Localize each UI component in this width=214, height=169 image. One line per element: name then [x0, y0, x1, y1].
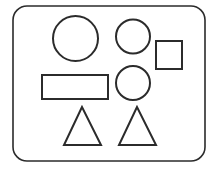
square [156, 41, 182, 69]
shapes-diagram [0, 0, 214, 169]
left-triangle [64, 107, 101, 145]
large-circle [53, 16, 98, 61]
top-right-circle [116, 20, 150, 54]
rectangle [42, 75, 108, 99]
middle-right-circle [116, 66, 150, 100]
right-triangle [119, 107, 156, 145]
